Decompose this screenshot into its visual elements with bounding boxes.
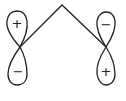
left-p-orbital: + −	[7, 11, 27, 85]
orbital-diagram: + − − +	[0, 0, 126, 101]
right-p-orbital: − +	[97, 12, 115, 85]
right-bottom-sign: +	[101, 64, 112, 79]
right-top-sign: −	[101, 17, 112, 32]
left-top-sign: +	[12, 16, 23, 31]
bond-line	[20, 5, 106, 47]
left-bottom-sign: −	[13, 64, 24, 79]
